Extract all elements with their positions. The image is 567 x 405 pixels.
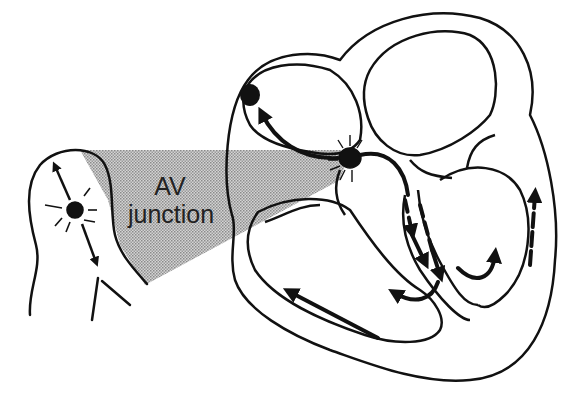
magnification-wedge	[80, 150, 350, 285]
label-line-junction: junction	[128, 200, 212, 228]
av-junction-label: AV junction	[128, 172, 212, 228]
sa-node-icon	[240, 84, 260, 106]
diagram-canvas	[0, 0, 567, 405]
heart-conduction-diagram: AV junction	[0, 0, 567, 405]
label-line-av: AV	[128, 172, 212, 200]
inset-node-icon	[45, 188, 97, 232]
